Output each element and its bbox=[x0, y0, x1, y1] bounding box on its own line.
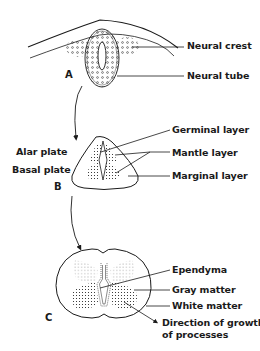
label-mantle-layer: Mantle layer bbox=[172, 147, 238, 158]
label-marginal-layer: Marginal layer bbox=[172, 170, 248, 181]
label-direction-of-growth: Direction of growth bbox=[162, 317, 260, 328]
label-ependyma: Ependyma bbox=[172, 264, 227, 275]
white-matter bbox=[56, 249, 151, 318]
label-white-matter: White matter bbox=[172, 300, 242, 311]
label-neural-crest: Neural crest bbox=[187, 40, 252, 51]
stage-label-a: A bbox=[65, 69, 73, 80]
stage-label-b: B bbox=[54, 181, 62, 192]
stage-label-c: C bbox=[45, 312, 52, 323]
label-germinal-layer: Germinal layer bbox=[172, 124, 249, 135]
label-of-processes: of processes bbox=[162, 329, 228, 340]
stage-c-drawing bbox=[56, 249, 170, 322]
label-basal-plate: Basal plate bbox=[12, 164, 71, 175]
label-gray-matter: Gray matter bbox=[172, 284, 236, 295]
diagram-canvas: Neural crest Neural tube A Germinal laye… bbox=[0, 0, 260, 351]
label-alar-plate: Alar plate bbox=[16, 146, 67, 157]
label-neural-tube: Neural tube bbox=[187, 70, 249, 81]
stage-b-drawing bbox=[71, 130, 170, 248]
stage-a-drawing bbox=[28, 20, 184, 138]
